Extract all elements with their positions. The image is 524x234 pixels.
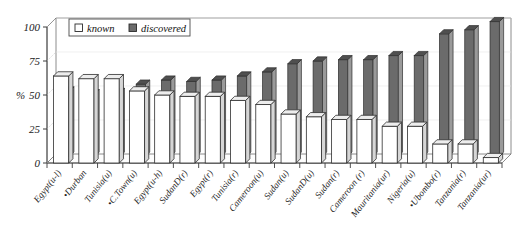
bar-known: [231, 96, 250, 163]
bar-known: [382, 122, 401, 163]
bar-known: [104, 74, 123, 163]
bar-known: [458, 140, 477, 163]
bar-known: [79, 74, 98, 163]
legend-label-discovered: discovered: [141, 23, 187, 34]
bar-discovered: [490, 17, 504, 156]
bar-known: [483, 153, 502, 163]
bar-discovered: [439, 30, 453, 157]
x-axis-category-labels: Egypt(u-l)•DurbanTunisia(u)•C.Town(u)Egy…: [31, 168, 494, 221]
y-tick-label-0: 0: [35, 157, 41, 169]
bar-known: [433, 140, 452, 163]
bar-known: [407, 122, 426, 163]
bar-discovered: [465, 26, 479, 157]
legend-swatch-discovered: [129, 24, 137, 32]
bar-known: [180, 92, 199, 163]
bar-known: [306, 113, 325, 163]
bar-known: [256, 100, 275, 163]
legend-swatch-known: [75, 24, 83, 32]
y-tick-label-75: 75: [29, 55, 41, 67]
y-tick-label-25: 25: [29, 123, 41, 135]
y-axis-title: %: [16, 89, 25, 101]
bar-known: [332, 115, 351, 163]
bar-known: [155, 91, 174, 163]
y-tick-label-100: 100: [24, 21, 41, 33]
y-tick-label-50: 50: [29, 89, 41, 101]
x-axis: [47, 163, 502, 168]
chart-legend: known discovered: [69, 19, 190, 36]
bar-known: [357, 115, 376, 163]
x-category-label: Egypt(u-l): [31, 168, 64, 206]
bar-known: [54, 72, 73, 163]
legend-label-known: known: [87, 23, 114, 34]
bar-known: [281, 110, 300, 163]
bar-chart: 0255075100 % Egypt(u-l)•DurbanTunisia(u)…: [0, 0, 524, 234]
bar-known: [129, 87, 148, 163]
bar-known: [205, 92, 224, 163]
chart-canvas: 0255075100 % Egypt(u-l)•DurbanTunisia(u)…: [0, 0, 524, 234]
